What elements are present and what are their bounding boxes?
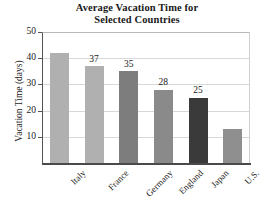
x-tick-label-france: France <box>106 168 130 192</box>
gridline <box>42 84 250 85</box>
y-tick-mark <box>38 32 42 33</box>
x-tick-label-italy: Italy <box>69 168 88 187</box>
bar-japan[interactable]: 25 <box>189 98 208 164</box>
x-tick-label-england: England <box>177 168 205 196</box>
gridline <box>42 111 250 112</box>
bar-england[interactable]: 28 <box>154 90 173 163</box>
y-tick-mark <box>38 58 42 59</box>
y-tick-label: 10 <box>27 132 37 142</box>
bar-italy[interactable] <box>50 53 69 163</box>
bar-germany[interactable]: 35 <box>119 71 138 163</box>
y-tick-label: 50 <box>27 27 37 37</box>
y-tick-label: 30 <box>27 80 37 90</box>
y-tick-label: 20 <box>27 106 37 116</box>
y-tick-mark <box>38 84 42 85</box>
chart-title-line-2: Selected Countries <box>30 14 244 26</box>
y-tick-mark <box>38 111 42 112</box>
plot-frame <box>42 32 250 163</box>
x-tick-label-us: U.S. <box>242 168 260 186</box>
chart-title: Average Vacation Time for Selected Count… <box>30 2 244 25</box>
gridline <box>42 137 250 138</box>
y-axis-title: Vacation Time (days) <box>14 36 24 166</box>
chart-title-line-1: Average Vacation Time for <box>76 2 198 13</box>
y-tick-mark <box>38 137 42 138</box>
bar-value-label: 25 <box>193 86 203 96</box>
bar-value-label: 37 <box>89 55 99 65</box>
bar-france[interactable]: 37 <box>85 66 104 163</box>
bar-chart-figure: Average Vacation Time for Selected Count… <box>0 0 264 224</box>
x-axis-line <box>42 163 251 165</box>
x-tick-label-germany: Germany <box>143 168 174 199</box>
bar-value-label: 35 <box>124 60 134 70</box>
y-tick-label: 40 <box>27 53 37 63</box>
bar-value-label: 28 <box>159 78 169 88</box>
x-tick-label-japan: Japan <box>209 168 231 190</box>
gridline <box>42 58 250 59</box>
plot-area: 1020304050 37352825 <box>42 32 250 163</box>
bar-us[interactable] <box>223 129 242 163</box>
